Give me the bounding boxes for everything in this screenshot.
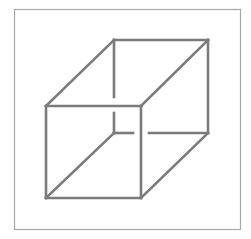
connector-top-left <box>46 40 114 106</box>
connector-bottom-right <box>141 133 208 198</box>
connector-bottom-left <box>46 133 114 198</box>
cube-diagram <box>0 0 251 239</box>
connector-top-right <box>141 40 208 106</box>
cube-edges <box>46 40 208 198</box>
